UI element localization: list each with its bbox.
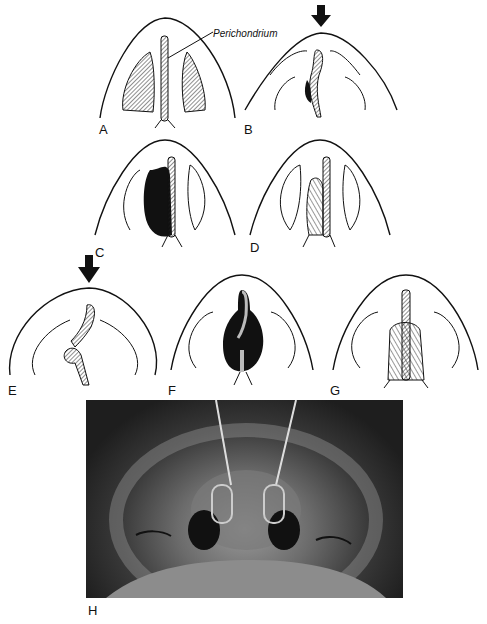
- panel-b: [245, 5, 405, 135]
- panel-c: [90, 135, 240, 245]
- panel-d: [245, 135, 395, 245]
- diagram-fracture-hematoma: [168, 270, 316, 390]
- panel-g: [330, 270, 480, 390]
- panel-label-f: F: [168, 383, 176, 398]
- panel-label-g: G: [330, 383, 340, 398]
- panel-f: [168, 270, 316, 390]
- photo-illustration: [86, 400, 403, 598]
- panel-label-d: D: [250, 240, 259, 255]
- panel-a: Perichondrium: [95, 10, 245, 140]
- arrow-down-icon: [311, 5, 331, 27]
- panel-label-h: H: [88, 603, 97, 618]
- diagram-septum-packed: [245, 135, 395, 245]
- surgical-photo: [86, 400, 403, 598]
- diagram-septal-hematoma: [90, 135, 240, 245]
- diagram-fracture-packed: [330, 270, 480, 390]
- panel-e: [5, 255, 165, 390]
- panel-label-e: E: [8, 383, 17, 398]
- diagram-septum-displaced: [245, 5, 405, 135]
- arrow-down-icon: [78, 255, 100, 283]
- diagram-septal-fracture: [5, 255, 165, 390]
